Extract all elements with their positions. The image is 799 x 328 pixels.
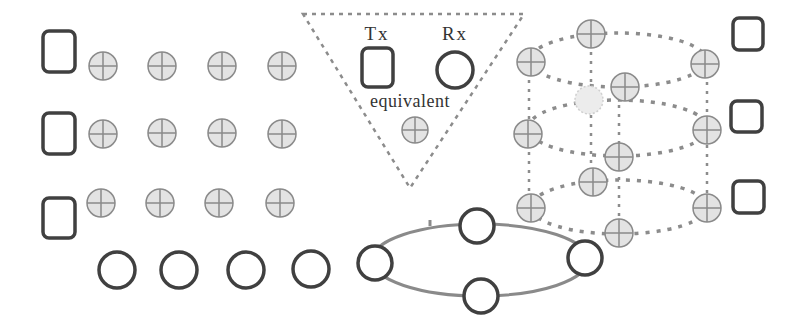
rx-circle-icon [293, 251, 329, 287]
tx-square-icon [362, 48, 393, 87]
rx-circle-icon [460, 209, 494, 243]
ring-array [358, 209, 602, 313]
cylindrical-array [514, 18, 764, 247]
plus-node-icon [268, 120, 296, 148]
tx-square-icon [733, 181, 764, 213]
plus-node-icon [517, 48, 545, 76]
equivalent-label: equivalent [370, 91, 450, 111]
plus-node-icon [579, 168, 607, 196]
equivalence-legend: Tx Rx equivalent [303, 14, 524, 188]
rx-circle-icon [161, 252, 197, 288]
plus-node-icon [208, 119, 236, 147]
plus-node-icon [266, 189, 294, 217]
rx-label: Rx [442, 23, 468, 44]
plus-node-icon [693, 194, 721, 222]
plus-node-icon [148, 52, 176, 80]
plus-node-icon [87, 189, 115, 217]
tx-square-icon [43, 31, 75, 72]
left-array-grid [43, 31, 329, 288]
plus-node-icon [577, 20, 605, 48]
plus-node-icon [605, 219, 633, 247]
plus-node-icon [402, 117, 428, 143]
plus-node-icon [605, 143, 633, 171]
plus-node-icon [208, 52, 236, 80]
hidden-node-icon [575, 86, 603, 114]
plus-node-icon [693, 116, 721, 144]
rx-circle-icon [99, 252, 135, 288]
tx-label: Tx [364, 23, 389, 44]
rx-circle-icon [568, 241, 602, 275]
rx-circle-icon [358, 246, 392, 280]
plus-node-icon [691, 50, 719, 78]
tx-square-icon [43, 113, 75, 154]
plus-node-icon [89, 120, 117, 148]
tx-square-icon [731, 101, 762, 132]
plus-node-icon [517, 194, 545, 222]
rx-circle-icon [464, 279, 498, 313]
rx-circle-icon [437, 52, 473, 88]
plus-node-icon [148, 119, 176, 147]
tx-square-icon [733, 18, 763, 50]
plus-node-icon [268, 52, 296, 80]
rx-circle-icon [228, 252, 264, 288]
plus-node-icon [146, 189, 174, 217]
tx-square-icon [43, 198, 75, 238]
plus-node-icon [89, 52, 117, 80]
plus-node-icon [611, 73, 639, 101]
plus-node-icon [514, 120, 542, 148]
plus-node-icon [205, 189, 233, 217]
antenna-diagram: Tx Rx equivalent [0, 0, 799, 328]
